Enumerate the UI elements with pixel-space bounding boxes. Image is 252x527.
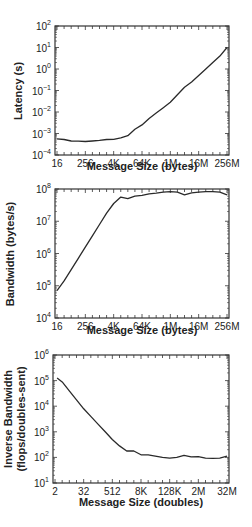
y-tick-label: 104 — [36, 311, 51, 324]
data-series-line — [57, 192, 227, 291]
latency-xlabel: Message Size (bytes) — [87, 160, 198, 172]
y-tick-label: 10−3 — [32, 127, 51, 140]
y-tick-label: 102 — [36, 19, 51, 32]
y-tick-label: 104 — [34, 399, 49, 412]
y-tick-label: 101 — [36, 41, 51, 54]
bandwidth-xlabel: Message Size (bytes) — [87, 324, 198, 336]
bandwidth-ylabel: Bandwidth (bytes/s) — [4, 201, 16, 306]
data-series-line — [57, 48, 227, 142]
chart-figure: 162564K64K1M16M256M10−410−310−210−110010… — [0, 0, 252, 527]
inverse-bandwidth-ylabel-line1: Inverse Bandwidth — [2, 370, 14, 468]
y-tick-label: 10−2 — [32, 105, 51, 118]
x-tick-label: 256M — [214, 158, 239, 169]
y-tick-label: 106 — [34, 348, 49, 361]
x-tick-label: 16 — [51, 321, 63, 332]
data-series-line — [57, 378, 227, 458]
x-tick-label: 2 — [52, 486, 58, 497]
latency-ylabel: Latency (s) — [12, 62, 24, 120]
inverse-bandwidth-ylabel-line2: (flops/doubles-sent) — [15, 366, 27, 471]
plot-frame — [55, 26, 229, 155]
y-tick-label: 10−4 — [32, 148, 51, 161]
y-tick-label: 105 — [34, 374, 49, 387]
y-tick-label: 102 — [34, 450, 49, 463]
x-tick-label: 32M — [217, 486, 236, 497]
y-tick-label: 108 — [36, 182, 51, 195]
y-tick-label: 101 — [34, 476, 49, 489]
x-tick-label: 256M — [214, 321, 239, 332]
plot-frame — [53, 355, 229, 483]
y-tick-label: 10−1 — [32, 84, 51, 97]
y-tick-label: 103 — [34, 425, 49, 438]
inverse-bandwidth-plot: 2325128K128K2M32M101102103104105106 — [34, 348, 237, 497]
y-tick-label: 100 — [36, 62, 51, 75]
figure-svg: 162564K64K1M16M256M10−410−310−210−110010… — [0, 0, 252, 527]
latency-plot: 162564K64K1M16M256M10−410−310−210−110010… — [32, 19, 240, 169]
inverse-bandwidth-xlabel: Message Size (doubles) — [79, 496, 203, 508]
bandwidth-plot: 162564K64K1M16M256M104105106107108 — [36, 182, 240, 332]
y-tick-label: 106 — [36, 247, 51, 260]
y-tick-label: 105 — [36, 279, 51, 292]
y-tick-label: 107 — [36, 214, 51, 227]
x-tick-label: 16 — [51, 158, 63, 169]
